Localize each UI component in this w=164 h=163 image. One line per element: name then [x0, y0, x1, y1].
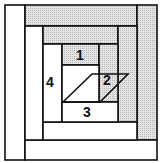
center-square	[62, 65, 99, 102]
label-piece-1: 1	[76, 47, 84, 63]
label-piece-4: 4	[46, 74, 54, 90]
outer-right-strip	[137, 5, 157, 140]
label-piece-2: 2	[103, 72, 111, 88]
middle-bottom-strip	[43, 122, 137, 140]
middle-left-strip	[25, 26, 43, 140]
outer-top-strip	[25, 5, 137, 26]
log-cabin-diagram: 1 2 3 4	[0, 0, 164, 163]
outer-left-strip	[5, 5, 25, 160]
label-piece-3: 3	[83, 104, 91, 120]
outer-bottom-strip	[25, 140, 157, 160]
middle-top-strip	[43, 26, 118, 44]
